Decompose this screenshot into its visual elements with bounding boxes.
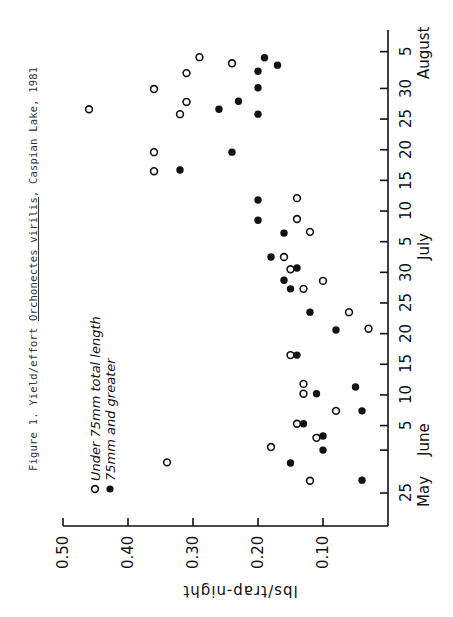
date-tick-label: 25 xyxy=(397,293,415,312)
filled-circle-point xyxy=(319,432,326,439)
open-circle-point xyxy=(151,86,158,93)
filled-circle-point xyxy=(254,68,261,75)
figure-title: Figure 1. Yield/effort Orchonectes viril… xyxy=(27,67,39,471)
filled-circle-point xyxy=(358,407,365,414)
date-tick-label: 20 xyxy=(397,140,415,159)
filled-circle-point xyxy=(332,326,339,333)
figure-title-species: Orchonectes virilis xyxy=(27,197,39,321)
filled-circle-point xyxy=(293,264,300,271)
date-tick-label: 10 xyxy=(397,201,415,220)
open-circle-point xyxy=(177,111,184,118)
open-circle-point xyxy=(164,459,171,466)
value-tick-label: 0.50 xyxy=(54,536,72,569)
date-tick-label: 10 xyxy=(397,385,415,404)
open-circle-point xyxy=(151,149,158,156)
value-tick-label: 0.30 xyxy=(184,536,202,569)
figure-title-prefix: Figure 1. Yield/effort xyxy=(27,321,39,471)
month-label-june: June xyxy=(415,423,433,456)
series-under-75mm xyxy=(86,54,372,484)
open-circle-point xyxy=(307,228,314,235)
value-tick-label: 0.20 xyxy=(249,536,267,569)
filled-circle-point xyxy=(176,166,183,173)
filled-circle-point xyxy=(267,253,274,260)
open-circle-point xyxy=(300,390,307,397)
filled-circle-point xyxy=(254,110,261,117)
month-label-may: May xyxy=(415,475,433,506)
scatter-figure: Figure 1. Yield/effort Orchonectes viril… xyxy=(0,0,453,617)
filled-circle-point xyxy=(254,217,261,224)
date-tick-label: 15 xyxy=(397,170,415,189)
date-tick-label: 25 xyxy=(397,483,415,502)
figure-title-suffix: , Caspian Lake, 1981 xyxy=(27,67,39,197)
date-tick-label: 5 xyxy=(397,47,415,57)
filled-circle-point xyxy=(352,383,359,390)
value-axis-title: lbs/trap-night xyxy=(150,582,330,600)
filled-circle-point xyxy=(235,98,242,105)
open-circle-point xyxy=(196,54,203,61)
open-circle-point xyxy=(183,70,190,77)
open-circle-point xyxy=(307,477,314,484)
filled-circle-point xyxy=(228,148,235,155)
open-circle-point xyxy=(183,99,190,106)
filled-circle-point xyxy=(261,54,268,61)
value-tick-label: 0.40 xyxy=(119,536,137,569)
filled-circle-point xyxy=(215,106,222,113)
date-tick-label: 20 xyxy=(397,324,415,343)
date-tick-label: 25 xyxy=(397,109,415,128)
date-tick-label: 5 xyxy=(397,421,415,431)
month-label-july: July xyxy=(415,233,433,260)
filled-circle-point xyxy=(319,446,326,453)
open-circle-point xyxy=(333,407,340,414)
filled-circle-point xyxy=(313,390,320,397)
open-circle-point xyxy=(294,420,301,427)
date-tick-label: 5 xyxy=(397,237,415,247)
legend-filled-label: 75mm and greater xyxy=(103,358,118,481)
legend-markers xyxy=(92,485,114,492)
open-circle-point xyxy=(268,444,275,451)
open-circle-point xyxy=(151,168,158,175)
open-circle-point xyxy=(86,106,93,113)
legend-filled-circle-icon xyxy=(106,485,113,492)
filled-circle-point xyxy=(274,61,281,68)
open-circle-point xyxy=(300,380,307,387)
filled-circle-point xyxy=(293,351,300,358)
open-circle-point xyxy=(229,60,236,67)
filled-circle-point xyxy=(280,229,287,236)
series-75mm-and-greater xyxy=(176,54,365,484)
legend-open-label: Under 75mm total length xyxy=(88,316,103,481)
date-tick-label: 30 xyxy=(397,262,415,281)
open-circle-point xyxy=(313,434,320,441)
open-circle-point xyxy=(365,325,372,332)
filled-circle-point xyxy=(280,277,287,284)
filled-circle-point xyxy=(287,459,294,466)
filled-circle-point xyxy=(358,476,365,483)
open-circle-point xyxy=(320,278,327,285)
open-circle-point xyxy=(346,309,353,316)
open-circle-point xyxy=(287,266,294,273)
filled-circle-point xyxy=(254,84,261,91)
open-circle-point xyxy=(294,195,301,202)
filled-circle-point xyxy=(306,308,313,315)
open-circle-point xyxy=(300,285,307,292)
date-tick-label: 15 xyxy=(397,354,415,373)
month-label-august: August xyxy=(415,26,433,79)
filled-circle-point xyxy=(254,196,261,203)
filled-circle-point xyxy=(300,420,307,427)
legend-open-circle-icon xyxy=(92,486,99,493)
open-circle-point xyxy=(287,352,294,359)
date-tick-label: 30 xyxy=(397,79,415,98)
filled-circle-point xyxy=(287,285,294,292)
plot-area xyxy=(0,0,453,617)
value-tick-label: 0.10 xyxy=(314,536,332,569)
open-circle-point xyxy=(294,216,301,223)
open-circle-point xyxy=(281,254,288,261)
